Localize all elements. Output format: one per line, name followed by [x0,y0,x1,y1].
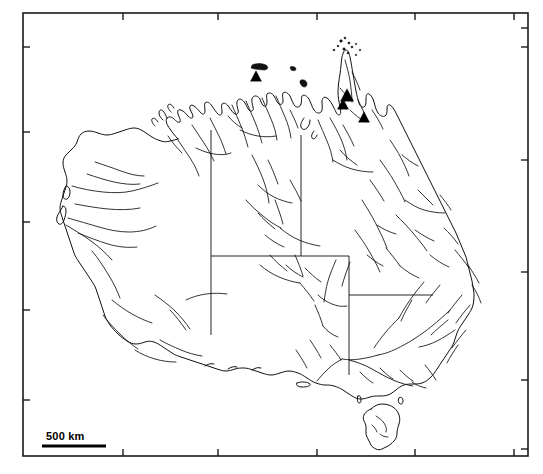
river-darling-4 [401,300,412,321]
torres-strait-island [340,40,343,43]
river-channel-4 [286,265,303,277]
river-channel-10 [323,326,338,337]
river-qld-east-10 [444,228,458,244]
river-lake-eyre-basin [318,295,347,306]
river-vic-4 [412,382,426,388]
torres-strait-island [355,43,357,45]
river-channel-3 [305,268,321,282]
river-sa-1 [310,340,321,358]
river-nsw-2 [456,305,470,323]
river-nt-15 [265,235,284,247]
torres-strait-island [359,49,361,51]
arnhem-coast-island [290,67,296,71]
river-nt-6 [228,116,242,128]
torres-strait-island [333,49,335,51]
river-kimberley-1 [178,140,199,176]
river-qld-east-6 [418,190,433,205]
river-qld-capeyork-2 [352,72,360,90]
river-wa-5 [66,225,112,260]
river-vic-1 [400,370,413,381]
river-nt-16 [290,180,301,201]
river-nt-14 [280,228,320,246]
river-channel-9 [315,305,323,326]
torres-strait-island [337,45,339,47]
river-nt-13 [275,200,283,224]
tiwi-islands [251,64,268,71]
river-lachlan [431,320,448,335]
river-qld-gulf-3 [343,125,354,146]
river-nsw-1 [448,295,462,313]
river-nt-11 [246,200,281,228]
river-qld-east-4 [370,180,384,201]
map-frame-border [23,13,528,456]
river-qld-interior-5 [355,230,380,272]
torres-strait-island [351,46,353,48]
river-wa-7 [95,162,144,176]
river-wa-13 [160,340,202,356]
river-murray-1 [414,310,450,339]
australia-map-canvas: 500 km [0,0,543,474]
map-axis-ticks [23,13,528,456]
river-sa-3 [330,345,341,360]
river-nt-12 [258,213,275,229]
islands-group [251,37,403,450]
scale-bar: 500 km [42,430,106,446]
river-nt-1 [232,105,248,147]
river-darling-2 [426,285,440,303]
river-qld-interior-1 [362,200,387,248]
river-channel-5 [270,255,287,271]
river-murrumbidgee [419,330,455,347]
river-qld-east-5 [405,200,445,213]
river-qld-interior-3 [386,248,400,266]
river-nsw-5 [468,265,479,283]
kimberley-coast-detail [152,104,174,126]
river-nt-3 [262,98,277,140]
torres-strait-island [343,48,345,50]
gulf-carpentaria-detail [301,118,317,139]
coastline-group [57,50,474,399]
river-murray-2 [378,339,414,355]
river-nsw-3 [452,330,466,348]
river-kimberley-5 [168,136,182,153]
torres-strait-island [344,37,346,39]
river-wa-15 [186,293,227,300]
river-qld-gulf-2 [330,118,347,160]
torres-strait-island [347,52,349,54]
river-murray-4 [317,359,342,381]
river-nt-2 [246,101,262,143]
river-nt-9 [268,160,278,184]
tasmania-inland-detail [372,416,388,437]
river-darling-3 [374,318,399,348]
map-figure: 500 km [0,0,543,474]
river-channel-1 [324,260,336,302]
great-australian-bight-detail [205,364,261,370]
river-nt-4 [276,96,291,138]
kangaroo-island [296,382,310,387]
site-marker-triangle-4[interactable] [359,112,370,122]
river-nt-8 [252,155,269,203]
torres-strait-island [348,42,350,44]
river-qld-gulf-5 [340,150,357,165]
river-channel-8 [300,283,314,301]
river-qld-east-7 [440,195,451,210]
river-channel-7 [260,265,300,283]
torres-strait-island [355,54,357,56]
river-wa-6 [87,174,140,184]
river-qld-interior-4 [400,266,419,278]
site-marker-triangle-1[interactable] [251,71,262,81]
groote-eylandt [300,80,307,87]
river-wa-2 [75,204,140,210]
tasmania-coastline [363,404,400,450]
river-vic-5 [360,372,373,383]
river-qld-east-3 [380,160,405,202]
river-sa-2 [296,350,307,368]
river-wa-3 [68,218,156,232]
river-wa-1 [72,183,158,193]
river-nt-7 [290,110,298,128]
flinders-island [398,397,403,404]
river-wa-11 [155,295,190,329]
drainage-network-group [66,60,481,388]
river-qld-interior-6 [367,255,383,266]
river-murray-3 [342,355,378,360]
australia-mainland-coastline [60,50,474,399]
